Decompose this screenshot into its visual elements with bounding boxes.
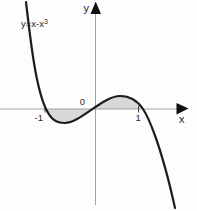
tick-label-one: 1: [136, 112, 141, 123]
plot-canvas: y=x-x3 y x 0 -1 1: [0, 0, 197, 211]
function-label: y=x-x3: [21, 18, 48, 30]
y-axis-label: y: [84, 2, 90, 14]
origin-label: 0: [80, 96, 85, 107]
function-label-exponent: 3: [44, 18, 48, 25]
tick-label-minus-one: -1: [35, 112, 43, 123]
function-plot-figure: y=x-x3 y x 0 -1 1: [0, 0, 197, 211]
function-label-base: y=x-x: [21, 18, 44, 29]
y-axis-arrow-icon: [91, 2, 102, 15]
x-axis-label: x: [179, 113, 185, 125]
